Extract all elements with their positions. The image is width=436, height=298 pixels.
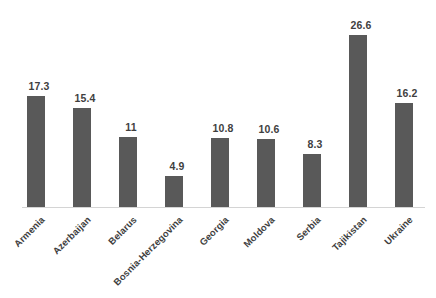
bar[interactable] [257, 139, 275, 208]
bar-value-label: 15.4 [62, 92, 108, 104]
bar[interactable] [349, 35, 367, 208]
bar-value-label: 26.6 [338, 19, 384, 31]
bar-value-label: 17.3 [16, 80, 62, 92]
bar-group: 4.9 [154, 0, 200, 208]
bar-group: 17.3 [16, 0, 62, 208]
bar-value-label: 4.9 [154, 160, 200, 172]
x-axis-label: Serbia [294, 214, 323, 243]
bar-value-label: 8.3 [292, 138, 338, 150]
bar-value-label: 11 [108, 121, 154, 133]
x-axis-labels: Armenia Azerbaijan Belarus Bosnia-Herzeg… [0, 208, 436, 298]
x-axis-label: Moldova [241, 214, 277, 250]
x-axis-label-slot: Ukraine [384, 208, 430, 298]
bar[interactable] [119, 137, 137, 208]
x-axis-label: Ukraine [382, 214, 415, 247]
x-axis-label: Belarus [106, 214, 139, 247]
bar[interactable] [211, 138, 229, 208]
bar-group: 10.6 [246, 0, 292, 208]
bar[interactable] [73, 108, 91, 208]
x-axis-label-slot: Azerbaijan [62, 208, 108, 298]
bar-value-label: 10.6 [246, 123, 292, 135]
bar[interactable] [303, 154, 321, 208]
bar-group: 11 [108, 0, 154, 208]
x-axis-label-slot: Serbia [292, 208, 338, 298]
bar-group: 10.8 [200, 0, 246, 208]
bar[interactable] [27, 96, 45, 208]
x-axis-label-slot: Tajikistan [338, 208, 384, 298]
bar-group: 15.4 [62, 0, 108, 208]
bar[interactable] [165, 176, 183, 208]
x-axis-label: Armenia [12, 214, 47, 249]
x-axis-label: Georgia [197, 214, 231, 248]
bar-value-label: 10.8 [200, 122, 246, 134]
bar-chart: 17.3 15.4 11 4.9 10.8 10.6 8.3 2 [0, 0, 436, 298]
bar[interactable] [395, 103, 413, 208]
x-axis-label-slot: Moldova [246, 208, 292, 298]
plot-area: 17.3 15.4 11 4.9 10.8 10.6 8.3 2 [0, 0, 436, 208]
bar-group: 8.3 [292, 0, 338, 208]
x-axis-label-slot: Georgia [200, 208, 246, 298]
bar-value-label: 16.2 [384, 87, 430, 99]
x-axis-label-slot: Bosnia-Herzegovina [154, 208, 200, 298]
bar-group: 26.6 [338, 0, 384, 208]
bar-group: 16.2 [384, 0, 430, 208]
